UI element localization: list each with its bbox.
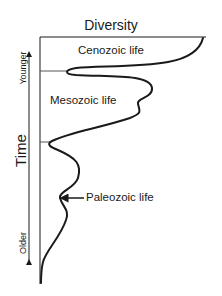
diversity-curve (41, 38, 203, 283)
time-label: Time (12, 121, 29, 181)
younger-label: Younger (18, 38, 28, 98)
paleozoic-life-label: Paleozoic life (86, 191, 154, 203)
older-label: Older (18, 213, 28, 273)
cenozoic-life-label: Cenozoic life (78, 44, 144, 56)
mesozoic-life-label: Mesozoic life (50, 94, 116, 106)
